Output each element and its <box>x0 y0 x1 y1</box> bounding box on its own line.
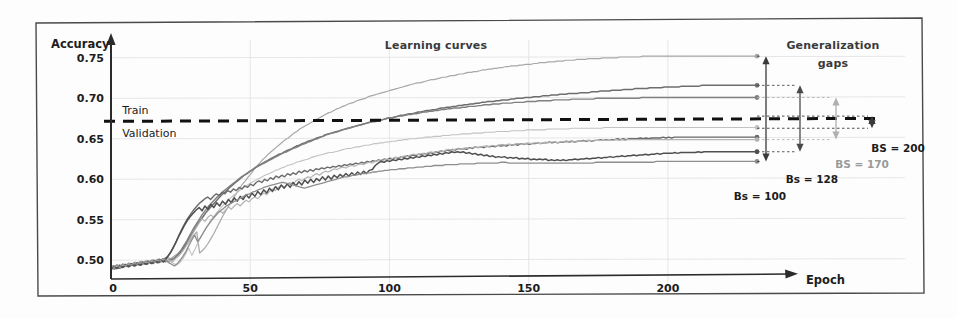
annotations-title-line2: gaps <box>818 57 849 70</box>
y-tick-label: 0.70 <box>77 92 104 105</box>
gap-labels: Bs = 100Bs = 128BS = 170BS = 200 <box>734 142 925 202</box>
y-tick-label: 0.75 <box>77 52 104 65</box>
y-tick-label: 0.50 <box>77 254 104 267</box>
threshold-dashed-line <box>104 118 880 121</box>
chart-axes <box>106 33 798 279</box>
chart-title: Learning curves <box>385 39 488 52</box>
series-line <box>111 140 757 269</box>
series-endpoint-marker <box>755 125 760 130</box>
figure-panel: 0.500.550.600.650.700.75 050100150200 Ac… <box>0 0 957 318</box>
gap-arrow-head-up <box>832 97 839 105</box>
gap-arrow-head-down <box>832 132 839 140</box>
gridline-horizontal <box>111 259 905 261</box>
x-tick-label: 200 <box>656 282 679 295</box>
y-tick-label: 0.60 <box>77 173 104 186</box>
y-axis-title: Accuracy <box>51 37 110 51</box>
chart-gridlines <box>111 40 905 288</box>
gap-label: Bs = 128 <box>786 173 838 185</box>
inline-group-label: Train <box>121 104 148 117</box>
gap-label: Bs = 100 <box>734 190 786 202</box>
x-tick-label: 0 <box>109 282 117 295</box>
gap-arrow-head-up <box>796 85 803 93</box>
gap-arrow-head-up <box>762 56 769 64</box>
gridline-horizontal <box>111 137 905 139</box>
annotations-title-line1: Generalization <box>786 39 879 52</box>
generalization-gap-annotations <box>757 56 876 161</box>
series-line <box>111 137 757 268</box>
gap-label: BS = 170 <box>835 158 889 170</box>
series-line <box>111 85 757 269</box>
chart-series-layer <box>111 54 759 269</box>
inline-group-label: Validation <box>122 127 176 140</box>
y-tick-label: 0.55 <box>77 214 104 227</box>
x-tick-label: 50 <box>243 282 259 295</box>
train-validation-divider <box>104 118 880 121</box>
gap-arrow-head-down <box>868 120 875 128</box>
gap-arrow-head-down <box>762 153 769 161</box>
x-axis-tick-labels: 050100150200 <box>109 282 680 295</box>
gridline-horizontal <box>111 56 905 58</box>
gridline-horizontal <box>111 97 905 99</box>
gridline-horizontal <box>111 218 905 220</box>
gap-label: BS = 200 <box>871 142 925 154</box>
y-tick-label: 0.65 <box>77 133 104 146</box>
gap-arrow-head-down <box>796 144 803 152</box>
x-axis-title: Epoch <box>806 273 845 287</box>
learning-curves-chart: 0.500.550.600.650.700.75 050100150200 Ac… <box>0 0 957 318</box>
x-tick-label: 100 <box>378 282 401 295</box>
x-tick-label: 150 <box>517 282 540 295</box>
series-line <box>111 161 757 267</box>
y-axis-tick-labels: 0.500.550.600.650.700.75 <box>77 52 104 267</box>
